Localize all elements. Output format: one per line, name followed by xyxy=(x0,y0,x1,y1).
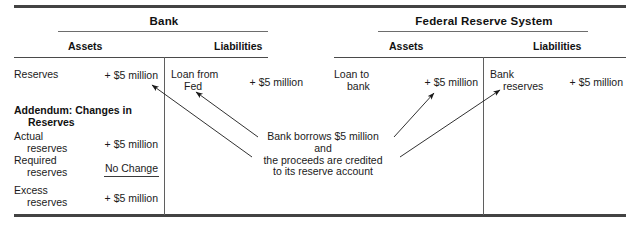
bank-liability-row-amount: + $5 million xyxy=(205,76,303,88)
fed-assets-column-header: Assets xyxy=(389,40,423,52)
fed-header-bold-rule xyxy=(334,57,626,58)
bank-liabilities-column-header: Liabilities xyxy=(214,40,262,52)
center-annotation: Bank borrows $5 million and the proceeds… xyxy=(248,131,398,178)
bank-table-vertical-divider xyxy=(164,57,165,215)
addendum-required-underline xyxy=(104,176,159,177)
fed-asset-row-label: Loan to bank xyxy=(334,69,370,92)
fed-table-title: Federal Reserve System xyxy=(380,15,588,27)
center-annotation-line4: to its reserve account xyxy=(248,166,398,178)
addendum-row-excess-amount: + $5 million xyxy=(60,192,158,204)
center-annotation-line2: and xyxy=(248,143,398,155)
fed-asset-row-amount: + $5 million xyxy=(380,76,478,88)
fed-table-vertical-divider xyxy=(483,57,484,215)
figure-bottom-rule xyxy=(14,214,626,217)
addendum-row-actual-amount: + $5 million xyxy=(60,138,158,150)
bank-asset-row-amount: + $5 million xyxy=(60,69,158,81)
bank-table-title: Bank xyxy=(60,15,268,27)
addendum-title: Addendum: Changes in Reserves xyxy=(14,104,164,128)
arrow-to-bank-reserves xyxy=(152,85,252,157)
arrow-to-fed-bank-reserves xyxy=(400,90,500,157)
fed-asset-row-label-line2: bank xyxy=(334,81,370,93)
figure-top-rule xyxy=(14,5,626,8)
bank-asset-row-label-line1: Reserves xyxy=(14,68,58,80)
addendum-row-required-label-line1: Required xyxy=(14,154,57,166)
addendum-row-excess-label-line1: Excess xyxy=(14,184,48,196)
bank-header-thin-rule xyxy=(58,31,268,32)
addendum-title-line2: Reserves xyxy=(14,116,164,128)
bank-assets-column-header: Assets xyxy=(68,40,102,52)
fed-header-thin-rule xyxy=(378,31,588,32)
bank-header-bold-rule xyxy=(14,57,268,58)
fed-liabilities-column-header: Liabilities xyxy=(533,40,581,52)
fed-liability-row-label-line1: Bank xyxy=(490,68,514,80)
fed-liability-row-amount: + $5 million xyxy=(525,76,623,88)
addendum-title-line1: Addendum: Changes in xyxy=(14,104,132,116)
bank-asset-row-label: Reserves xyxy=(14,69,58,81)
addendum-row-actual-label-line1: Actual xyxy=(14,130,43,142)
arrow-to-fed-loan-to-bank xyxy=(394,93,434,137)
fed-asset-row-label-line1: Loan to xyxy=(334,68,369,80)
addendum-row-required-amount: No Change xyxy=(60,162,158,174)
t-account-figure: Bank Assets Liabilities Reserves + $5 mi… xyxy=(0,0,640,232)
